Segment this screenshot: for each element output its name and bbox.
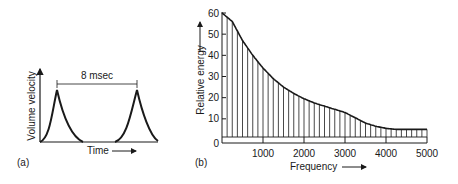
figure: 8 msec Volume velocity Time (a) 01020304… bbox=[0, 0, 458, 184]
panel-label-b: (b) bbox=[195, 157, 207, 168]
y-tick-label: 40 bbox=[208, 50, 220, 61]
y-tick-label: 30 bbox=[208, 71, 220, 82]
period-label: 8 msec bbox=[81, 70, 113, 81]
x-axis-label-a: Time bbox=[87, 145, 109, 156]
x-axis-label-b: Frequency bbox=[290, 161, 337, 172]
y-ticks-b: 0102030405060 bbox=[208, 8, 226, 149]
harmonic-stems bbox=[227, 17, 427, 137]
x-tick-label: 3000 bbox=[334, 148, 357, 159]
x-ticks-b: 10002000300040005000 bbox=[252, 137, 439, 159]
y-axis-label-a: Volume velocity bbox=[26, 71, 37, 140]
panel-b: 0102030405060 10002000300040005000 Relat… bbox=[195, 8, 439, 173]
y-axis-label-b: Relative energy bbox=[195, 45, 206, 114]
y-tick-label: 20 bbox=[208, 92, 220, 103]
y-tick-label: 50 bbox=[208, 29, 220, 40]
x-tick-label: 1000 bbox=[252, 148, 275, 159]
panel-a: 8 msec Volume velocity Time (a) bbox=[17, 69, 158, 168]
pulse-1 bbox=[40, 90, 83, 142]
panel-label-a: (a) bbox=[17, 157, 29, 168]
y-tick-label: 0 bbox=[213, 138, 219, 149]
x-tick-label: 5000 bbox=[416, 148, 439, 159]
y-tick-label: 10 bbox=[208, 113, 220, 124]
x-tick-label: 2000 bbox=[293, 148, 316, 159]
pulse-2 bbox=[115, 90, 158, 142]
y-tick-label: 60 bbox=[208, 8, 220, 19]
x-tick-label: 4000 bbox=[375, 148, 398, 159]
